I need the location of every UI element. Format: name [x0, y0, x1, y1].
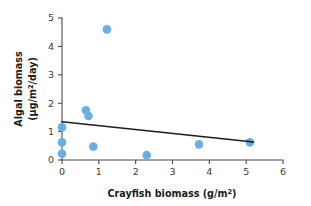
svg-text:(μg/m2/day): (μg/m2/day) — [27, 57, 38, 121]
x-tick-label: 6 — [280, 166, 286, 177]
y-tick-labels: 012345 — [48, 12, 54, 165]
x-tick-labels: 0123456 — [59, 166, 286, 177]
x-axis-group: 0123456 — [59, 160, 286, 177]
svg-text:Algal biomass: Algal biomass — [13, 51, 24, 127]
y-tick-label: 2 — [48, 98, 54, 109]
data-point — [89, 142, 98, 151]
y-tick-label: 5 — [48, 12, 54, 23]
data-point — [195, 140, 204, 149]
data-point — [58, 149, 67, 158]
y-tick-label: 3 — [48, 69, 54, 80]
y-tick-label: 1 — [48, 126, 54, 137]
x-tick-marks — [62, 160, 283, 164]
data-point — [103, 25, 112, 34]
x-axis-title: Crayfish biomass (g/m2) — [108, 188, 237, 199]
trend-line — [62, 122, 254, 142]
data-point — [142, 151, 151, 160]
svg-text:Crayfish biomass (g/m2): Crayfish biomass (g/m2) — [108, 188, 237, 199]
x-tick-label: 0 — [59, 166, 65, 177]
data-point — [58, 138, 67, 147]
plot-canvas: 012345 0123456 Crayfish biomass (g/m2) A… — [0, 0, 311, 206]
x-tick-label: 1 — [96, 166, 102, 177]
scatter-plot-figure: 012345 0123456 Crayfish biomass (g/m2) A… — [0, 0, 311, 206]
x-tick-label: 5 — [243, 166, 249, 177]
x-tick-label: 3 — [169, 166, 175, 177]
y-tick-label: 4 — [48, 41, 54, 52]
data-point — [84, 112, 93, 121]
x-tick-label: 4 — [206, 166, 212, 177]
y-tick-label: 0 — [48, 154, 54, 165]
y-axis-title: Algal biomass (μg/m2/day) — [13, 51, 38, 127]
data-point — [58, 123, 67, 132]
x-tick-label: 2 — [133, 166, 139, 177]
